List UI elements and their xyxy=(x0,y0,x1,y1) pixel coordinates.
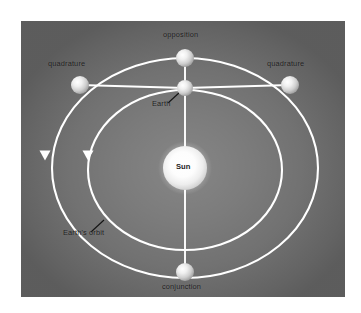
label-conjunction: conjunction xyxy=(162,283,201,290)
planet-quadrature-right xyxy=(281,76,299,94)
orbit-diagram xyxy=(0,0,361,313)
earth-body xyxy=(177,80,193,96)
planet-quadrature-left xyxy=(71,76,89,94)
label-opposition: opposition xyxy=(163,31,198,38)
label-earth: Earth xyxy=(152,100,170,107)
figure-canvas: opposition quadrature quadrature Earth S… xyxy=(0,0,361,313)
planet-opposition xyxy=(176,49,194,67)
inner-orbit-direction-arrow xyxy=(83,151,94,161)
outer-orbit-direction-arrow xyxy=(40,151,51,161)
planet-conjunction xyxy=(176,263,194,281)
label-quadrature-right: quadrature xyxy=(267,60,304,67)
label-earths-orbit: Earth's orbit xyxy=(63,229,104,236)
label-quadrature-left: quadrature xyxy=(48,60,85,67)
label-sun: Sun xyxy=(176,163,190,171)
